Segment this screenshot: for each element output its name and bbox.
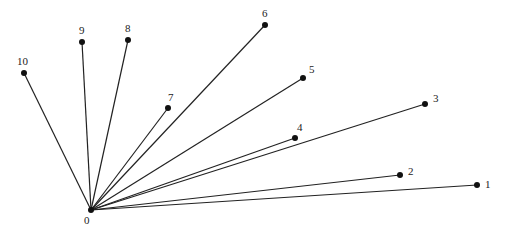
node-label-3: 3 xyxy=(433,92,439,104)
node-4 xyxy=(292,135,298,141)
node-6 xyxy=(262,22,268,28)
node-0 xyxy=(88,207,94,213)
node-8 xyxy=(125,37,131,43)
node-7 xyxy=(165,105,171,111)
node-9 xyxy=(79,39,85,45)
node-3 xyxy=(422,101,428,107)
node-5 xyxy=(300,75,306,81)
node-1 xyxy=(474,182,480,188)
edges xyxy=(24,25,477,210)
node-label-6: 6 xyxy=(262,7,268,19)
node-label-4: 4 xyxy=(297,121,303,133)
edge-0-9 xyxy=(82,42,91,210)
node-10 xyxy=(21,70,27,76)
edge-0-1 xyxy=(91,185,477,210)
graph-canvas: 012345678910 xyxy=(0,0,506,231)
node-label-8: 8 xyxy=(125,22,131,34)
node-2 xyxy=(397,172,403,178)
star-graph-diagram: 012345678910 xyxy=(0,0,506,231)
node-label-1: 1 xyxy=(485,178,491,190)
edge-0-10 xyxy=(24,73,91,210)
labels: 012345678910 xyxy=(17,7,491,226)
node-label-10: 10 xyxy=(17,55,29,67)
node-label-9: 9 xyxy=(79,24,85,36)
node-label-5: 5 xyxy=(309,63,315,75)
node-label-2: 2 xyxy=(408,165,414,177)
node-label-0: 0 xyxy=(84,214,90,226)
node-label-7: 7 xyxy=(168,91,174,103)
